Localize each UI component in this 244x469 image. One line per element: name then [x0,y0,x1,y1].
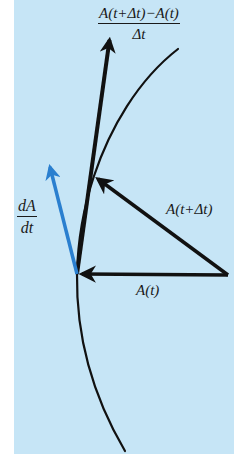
vector-a-t-label: A(t) [136,283,159,298]
derivative-numerator: dA [17,198,37,217]
difference-quotient-numerator: A(t+Δt)−A(t) [98,6,180,24]
vector-a-t-plus-dt-label: A(t+Δt) [166,202,212,217]
vector-a-t-plus-dt-arrow [98,179,228,275]
derivative-arrow [50,167,77,274]
trajectory-curve [77,49,178,451]
derivative-denominator: dt [21,217,33,236]
vector-a-t-arrow [82,274,228,275]
difference-quotient-label: A(t+Δt)−A(t) Δt [98,6,180,42]
derivative-label: dA dt [17,198,37,236]
difference-quotient-denominator: Δt [132,24,145,42]
difference-quotient-arrow [77,40,110,274]
